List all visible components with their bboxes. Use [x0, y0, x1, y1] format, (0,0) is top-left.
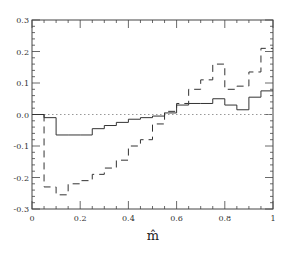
data-series	[32, 48, 273, 194]
tick-labels: 00.20.40.60.810.30.20.10.0-0.1-0.2-0.3	[14, 16, 276, 223]
x-tick-label: 0.4	[122, 214, 135, 223]
y-tick-label: 0.0	[16, 111, 29, 120]
x-axis-label: m̂	[147, 228, 159, 243]
x-tick-label: 1	[270, 214, 275, 223]
x-tick-label: 0.6	[170, 214, 183, 223]
x-tick-label: 0	[29, 214, 34, 223]
x-tick-label: 0.8	[218, 214, 231, 223]
y-tick-label: 0.2	[16, 48, 29, 57]
y-tick-label: -0.3	[14, 205, 29, 214]
y-tick-label: 0.3	[16, 16, 29, 25]
x-tick-label: 0.2	[74, 214, 87, 223]
y-tick-label: -0.1	[14, 142, 29, 151]
chart: 00.20.40.60.810.30.20.10.0-0.1-0.2-0.3 m…	[0, 0, 289, 253]
y-tick-label: 0.1	[16, 79, 29, 88]
dashed-series-line	[32, 48, 273, 194]
y-tick-label: -0.2	[14, 174, 29, 183]
